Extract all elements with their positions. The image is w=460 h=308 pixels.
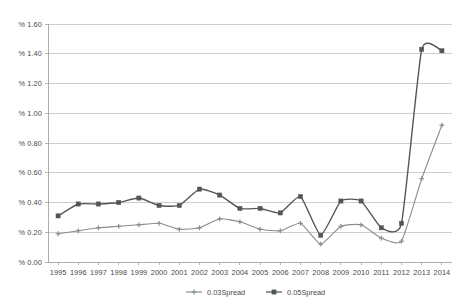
x-axis-tick-label: 2001 xyxy=(171,268,188,277)
x-axis-tick-label: 1996 xyxy=(70,268,87,277)
x-axis-tick-label: 2003 xyxy=(211,268,228,277)
y-axis-tick-label: % 0.40 xyxy=(18,198,42,207)
data-point-marker-square xyxy=(76,202,80,206)
x-axis-tick-label: 1995 xyxy=(50,268,67,277)
legend-item-2[interactable]: 0.05Spread xyxy=(266,288,325,297)
x-axis-tick-label: 2006 xyxy=(272,268,289,277)
x-axis-tick-label: 1998 xyxy=(110,268,127,277)
y-axis-tick-label: % 0.80 xyxy=(18,139,42,148)
data-series-1 xyxy=(56,123,445,247)
data-point-marker-square xyxy=(359,199,363,203)
y-axis-tick-label: % 1.00 xyxy=(18,109,42,118)
data-point-marker-plus xyxy=(238,219,243,224)
data-point-marker-square xyxy=(56,214,60,218)
data-point-marker-square xyxy=(137,196,141,200)
data-point-marker-square xyxy=(157,203,161,207)
data-point-marker-plus xyxy=(96,225,101,230)
data-point-marker-square xyxy=(298,194,302,198)
series-line xyxy=(58,43,442,235)
series-group xyxy=(56,43,445,246)
data-point-marker-square xyxy=(117,200,121,204)
data-point-marker-plus xyxy=(157,221,162,226)
data-point-marker-square xyxy=(272,290,276,294)
legend-label: 0.03Spread xyxy=(207,288,245,297)
line-chart: % 0.00% 0.20% 0.40% 0.60% 0.80% 1.00% 1.… xyxy=(0,0,460,308)
chart-legend: 0.03Spread0.05Spread xyxy=(186,288,325,297)
y-axis-tick-label: % 0.00 xyxy=(18,258,42,267)
data-series-2 xyxy=(56,43,444,237)
x-axis-tick-labels: 1995199619971998199920002001200220032004… xyxy=(50,268,451,277)
gridlines-group xyxy=(45,24,452,262)
data-point-marker-square xyxy=(258,206,262,210)
data-point-marker-square xyxy=(218,193,222,197)
data-point-marker-plus xyxy=(359,222,364,227)
y-axis-tick-labels: % 0.00% 0.20% 0.40% 0.60% 0.80% 1.00% 1.… xyxy=(18,20,42,267)
data-point-marker-plus xyxy=(379,236,384,241)
data-point-marker-plus xyxy=(217,216,222,221)
data-point-marker-plus xyxy=(192,290,197,295)
data-point-marker-square xyxy=(238,206,242,210)
data-point-marker-plus xyxy=(440,123,445,128)
x-axis-tick-label: 2007 xyxy=(292,268,309,277)
x-axis-tick-label: 2011 xyxy=(373,268,389,277)
data-point-marker-plus xyxy=(137,222,142,227)
data-point-marker-square xyxy=(379,226,383,230)
x-axis-tick-label: 2014 xyxy=(433,268,450,277)
x-axis-tick-label: 1997 xyxy=(90,268,107,277)
x-axis-tick-label: 2012 xyxy=(393,268,410,277)
x-axis-tick-marks xyxy=(58,262,442,265)
data-point-marker-square xyxy=(399,221,403,225)
data-point-marker-square xyxy=(177,203,181,207)
data-point-marker-square xyxy=(319,233,323,237)
x-axis-tick-label: 2002 xyxy=(191,268,208,277)
y-axis-tick-label: % 0.20 xyxy=(18,228,42,237)
x-axis-tick-label: 2009 xyxy=(332,268,349,277)
x-axis-tick-label: 2013 xyxy=(413,268,430,277)
data-point-marker-square xyxy=(339,199,343,203)
data-point-marker-plus xyxy=(419,176,424,181)
x-axis-tick-label: 2010 xyxy=(353,268,370,277)
data-point-marker-square xyxy=(420,47,424,51)
x-axis-tick-label: 2004 xyxy=(231,268,248,277)
data-point-marker-plus xyxy=(258,227,263,232)
data-point-marker-plus xyxy=(177,227,182,232)
y-axis-tick-label: % 0.60 xyxy=(18,168,42,177)
data-point-marker-square xyxy=(440,49,444,53)
data-point-marker-square xyxy=(278,211,282,215)
legend-label: 0.05Spread xyxy=(287,288,325,297)
data-point-marker-plus xyxy=(318,242,323,247)
data-point-marker-plus xyxy=(116,224,121,229)
x-axis-tick-label: 1999 xyxy=(130,268,147,277)
legend-item-1[interactable]: 0.03Spread xyxy=(186,288,245,297)
y-axis-tick-label: % 1.20 xyxy=(18,79,42,88)
y-axis-tick-label: % 1.60 xyxy=(18,20,42,29)
x-axis-tick-label: 2000 xyxy=(151,268,168,277)
chart-container: % 0.00% 0.20% 0.40% 0.60% 0.80% 1.00% 1.… xyxy=(0,0,460,308)
data-point-marker-square xyxy=(96,202,100,206)
data-point-marker-square xyxy=(197,187,201,191)
x-axis-tick-label: 2008 xyxy=(312,268,329,277)
y-axis-tick-label: % 1.40 xyxy=(18,49,42,58)
data-point-marker-plus xyxy=(197,225,202,230)
x-axis-tick-label: 2005 xyxy=(252,268,269,277)
